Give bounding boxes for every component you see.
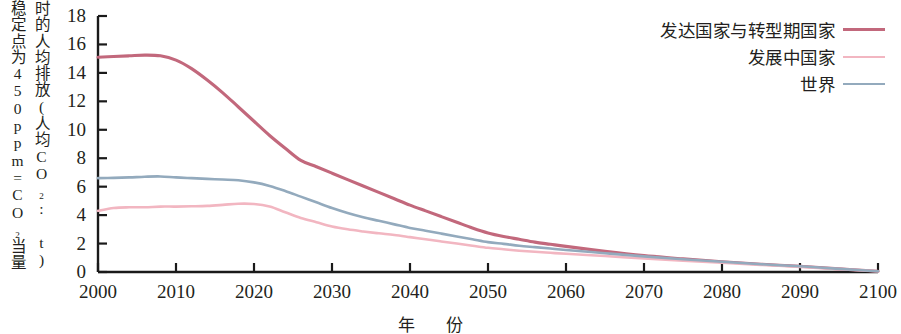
series-line-2 — [98, 176, 878, 271]
series-line-1 — [98, 204, 878, 272]
data-series-group — [98, 55, 878, 271]
series-line-0 — [98, 55, 878, 271]
